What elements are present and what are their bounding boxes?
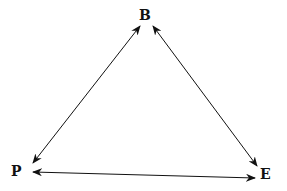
diagram-canvas: B P E: [0, 0, 287, 191]
edge-b-e: [153, 26, 257, 166]
node-b-label: B: [139, 8, 151, 22]
edges-layer: [0, 0, 287, 191]
node-p-label: P: [11, 164, 22, 178]
edge-b-p: [33, 26, 140, 163]
edge-p-e: [33, 172, 255, 178]
node-e-label: E: [260, 167, 271, 181]
